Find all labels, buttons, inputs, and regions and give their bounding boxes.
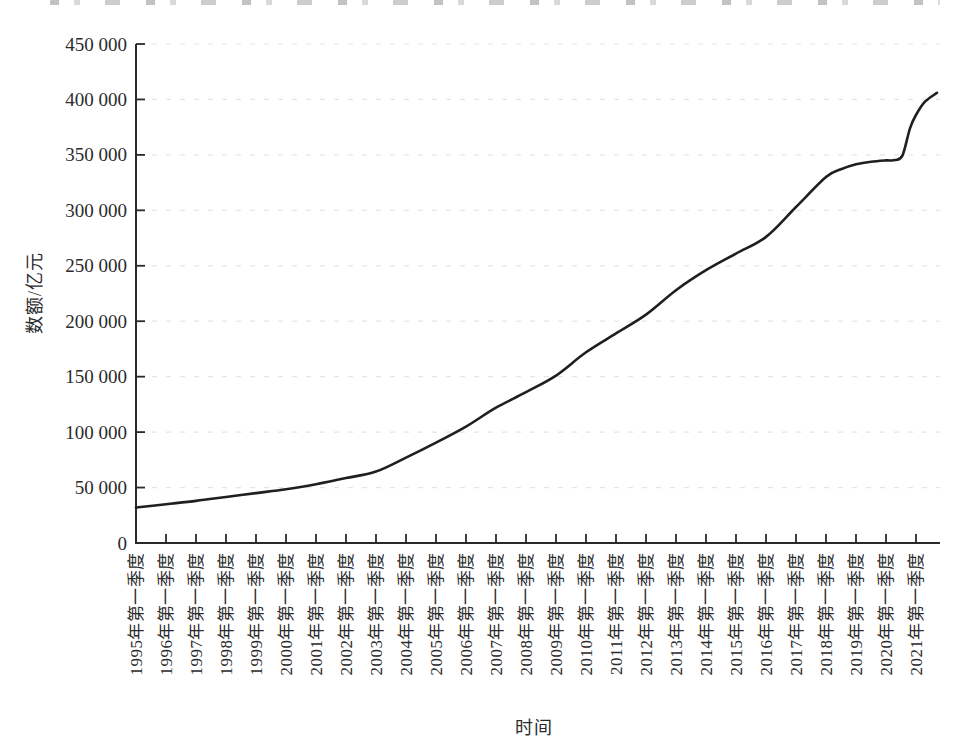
y-axis-title: 数额/亿元 (20, 252, 46, 334)
x-axis-title: 时间 (515, 713, 553, 739)
y-tick-label: 250 000 (65, 255, 127, 276)
x-tick-label: 2018年第一季度 (817, 552, 836, 676)
x-tick-label: 2011年第一季度 (607, 552, 626, 675)
y-tick-label: 200 000 (65, 311, 127, 332)
y-tick-label: 100 000 (65, 422, 127, 443)
x-tick-label: 2020年第一季度 (877, 552, 896, 676)
y-tick-label: 0 (118, 533, 128, 554)
y-tick-label: 300 000 (65, 200, 127, 221)
x-tick-label: 1996年第一季度 (157, 552, 176, 676)
x-tick-label: 2009年第一季度 (547, 552, 566, 676)
scanned-chart-page: 050 000100 000150 000200 000250 000300 0… (0, 0, 959, 754)
x-tick-label: 2001年第一季度 (307, 552, 326, 676)
line-chart: 050 000100 000150 000200 000250 000300 0… (0, 0, 959, 754)
x-tick-label: 2021年第一季度 (907, 552, 926, 676)
x-tick-label: 2012年第一季度 (637, 552, 656, 676)
x-tick-label: 2000年第一季度 (277, 552, 296, 676)
x-tick-label: 2016年第一季度 (757, 552, 776, 676)
x-tick-label: 2019年第一季度 (847, 552, 866, 676)
y-tick-label: 400 000 (65, 89, 127, 110)
x-tick-label: 2013年第一季度 (667, 552, 686, 676)
x-tick-label: 2003年第一季度 (367, 552, 386, 676)
x-tick-label: 1997年第一季度 (187, 552, 206, 676)
x-tick-label: 2007年第一季度 (487, 552, 506, 676)
x-tick-label: 2006年第一季度 (457, 552, 476, 676)
x-tick-label: 2008年第一季度 (517, 552, 536, 676)
x-tick-label: 1998年第一季度 (217, 552, 236, 676)
x-tick-label: 2004年第一季度 (397, 552, 416, 676)
x-tick-label: 2002年第一季度 (337, 552, 356, 676)
x-tick-label: 2015年第一季度 (727, 552, 746, 676)
x-tick-label: 2005年第一季度 (427, 552, 446, 676)
data-line (136, 93, 937, 508)
x-tick-label: 2010年第一季度 (577, 552, 596, 676)
x-tick-label: 2014年第一季度 (697, 552, 716, 676)
y-tick-label: 50 000 (75, 477, 127, 498)
y-tick-label: 450 000 (65, 34, 127, 55)
x-tick-label: 1995年第一季度 (127, 552, 146, 676)
x-tick-label: 2017年第一季度 (787, 552, 806, 676)
y-tick-label: 350 000 (65, 144, 127, 165)
x-tick-label: 1999年第一季度 (247, 552, 266, 676)
y-tick-label: 150 000 (65, 366, 127, 387)
